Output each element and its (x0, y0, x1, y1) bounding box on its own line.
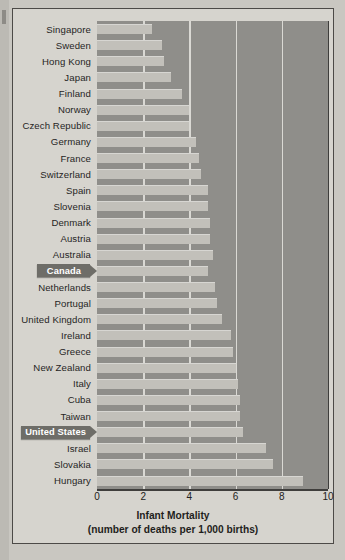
bar-row (97, 166, 328, 182)
bar (97, 476, 303, 486)
bar (97, 363, 236, 373)
bar-row (97, 473, 328, 489)
category-label-switzerland: Switzerland (13, 166, 97, 182)
x-tick-2: 2 (140, 491, 146, 502)
bar-row (97, 456, 328, 472)
bar (97, 250, 213, 260)
bar (97, 266, 208, 276)
bar-row (97, 198, 328, 214)
category-label-singapore: Singapore (13, 21, 97, 37)
bar-row (97, 311, 328, 327)
bar (97, 218, 210, 228)
category-label-israel: Israel (13, 440, 97, 456)
category-label-united-states: United States (13, 424, 97, 440)
chart-plot-area (97, 21, 329, 489)
bar (97, 201, 208, 211)
highlight-tag: United States (21, 426, 90, 439)
category-label-spain: Spain (13, 182, 97, 198)
bar (97, 411, 240, 421)
bar (97, 395, 240, 405)
bar-row (97, 440, 328, 456)
bar (97, 347, 233, 357)
bar-row (97, 231, 328, 247)
category-label-slovakia: Slovakia (13, 456, 97, 472)
category-axis-labels: SingaporeSwedenHong KongJapanFinlandNorw… (13, 21, 97, 489)
bar (97, 153, 199, 163)
x-tick-0: 0 (94, 491, 100, 502)
category-label-united-kingdom: United Kingdom (13, 311, 97, 327)
bar-row (97, 279, 328, 295)
bar (97, 379, 238, 389)
bar-row (97, 424, 328, 440)
bar-row (97, 327, 328, 343)
bar (97, 121, 189, 131)
bar-row (97, 215, 328, 231)
category-label-new-zealand: New Zealand (13, 360, 97, 376)
bar (97, 40, 162, 50)
x-tick-4: 4 (187, 491, 193, 502)
bar (97, 314, 222, 324)
bar (97, 234, 210, 244)
bar-row (97, 118, 328, 134)
x-tick-10: 10 (322, 491, 333, 502)
bar-row (97, 53, 328, 69)
bar-row (97, 86, 328, 102)
bar-row (97, 134, 328, 150)
category-label-czech-republic: Czech Republic (13, 118, 97, 134)
highlight-tag: Canada (37, 264, 90, 277)
page-edge-mark (2, 10, 6, 24)
bar (97, 137, 196, 147)
category-label-greece: Greece (13, 344, 97, 360)
bar (97, 89, 182, 99)
bar (97, 185, 208, 195)
bar-row (97, 247, 328, 263)
bar-row (97, 344, 328, 360)
x-tick-8: 8 (279, 491, 285, 502)
category-label-austria: Austria (13, 231, 97, 247)
category-label-cuba: Cuba (13, 392, 97, 408)
chart-figure-frame: SingaporeSwedenHong KongJapanFinlandNorw… (12, 8, 334, 544)
bar (97, 72, 171, 82)
screenshot-page: SingaporeSwedenHong KongJapanFinlandNorw… (0, 0, 345, 560)
bar (97, 105, 189, 115)
axis-title: Infant Mortality (number of deaths per 1… (13, 509, 333, 536)
value-axis: 0246810 (97, 489, 328, 505)
chart-plot-wrapper: SingaporeSwedenHong KongJapanFinlandNorw… (13, 9, 333, 543)
bar-row (97, 102, 328, 118)
axis-line (97, 489, 328, 491)
category-label-taiwan: Taiwan (13, 408, 97, 424)
bar-row (97, 150, 328, 166)
bar (97, 169, 201, 179)
bar (97, 24, 152, 34)
bar-row (97, 21, 328, 37)
axis-title-sub: (number of deaths per 1,000 births) (13, 523, 333, 537)
category-label-ireland: Ireland (13, 327, 97, 343)
bar-row (97, 376, 328, 392)
category-label-hong-kong: Hong Kong (13, 53, 97, 69)
bar-row (97, 69, 328, 85)
x-tick-6: 6 (233, 491, 239, 502)
category-label-portugal: Portugal (13, 295, 97, 311)
category-label-japan: Japan (13, 69, 97, 85)
category-label-finland: Finland (13, 86, 97, 102)
bar (97, 459, 273, 469)
category-label-sweden: Sweden (13, 37, 97, 53)
bar-group (97, 21, 328, 489)
bar-row (97, 295, 328, 311)
category-label-france: France (13, 150, 97, 166)
bar-row (97, 360, 328, 376)
bar-row (97, 408, 328, 424)
page-edge-gutter (0, 0, 9, 560)
bar-row (97, 182, 328, 198)
category-label-norway: Norway (13, 102, 97, 118)
axis-title-main: Infant Mortality (136, 510, 209, 521)
bar-row (97, 263, 328, 279)
bar (97, 443, 266, 453)
bar-row (97, 37, 328, 53)
bar (97, 298, 217, 308)
category-label-netherlands: Netherlands (13, 279, 97, 295)
bar-row (97, 392, 328, 408)
bar (97, 56, 164, 66)
bar (97, 330, 231, 340)
bar (97, 282, 215, 292)
